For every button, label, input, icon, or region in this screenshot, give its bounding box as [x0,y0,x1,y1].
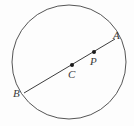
diameter-segment-ab [24,39,115,93]
point-dot-p [92,50,96,54]
point-label-b: B [13,88,20,99]
point-label-p: P [90,56,97,67]
point-label-c: C [68,69,75,80]
circle-outline [12,5,126,119]
point-label-a: A [113,30,120,41]
diagram-canvas [0,0,134,126]
circle-diagram: A P C B [0,0,134,126]
point-dot-c [70,63,74,67]
